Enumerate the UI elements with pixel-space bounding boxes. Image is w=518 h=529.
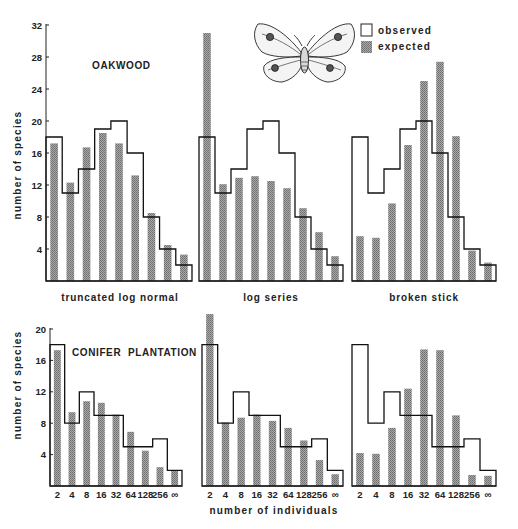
species-abundance-figure: number of species number of species 4812…	[0, 0, 518, 529]
x-tick-label: 4	[69, 489, 75, 500]
histogram-panel: 248163264128256∞	[202, 314, 343, 500]
expected-bar	[269, 421, 276, 486]
expected-bar	[222, 422, 229, 486]
histogram-panel	[46, 121, 192, 281]
y-tick-label: 24	[31, 84, 42, 95]
expected-bar	[171, 470, 178, 486]
x-tick-label: ∞	[485, 489, 492, 500]
y-tick-label: 16	[31, 148, 42, 159]
expected-bar	[237, 418, 244, 486]
expected-bar	[148, 213, 156, 281]
x-tick-label: 2	[55, 489, 60, 500]
expected-bar	[142, 451, 149, 486]
expected-bar	[206, 314, 213, 486]
model-label-broken-stick: broken stick	[389, 292, 459, 303]
x-tick-label: 4	[223, 489, 229, 500]
expected-bar	[484, 476, 492, 486]
expected-bar	[452, 415, 460, 486]
expected-bar	[203, 33, 211, 281]
x-axis-title: number of individuals	[209, 505, 338, 516]
model-label-log-series: log series	[243, 292, 299, 303]
x-tick-label: 16	[96, 489, 107, 500]
site-label-oakwood: OAKWOOD	[92, 60, 151, 71]
site-label-conifer: CONIFER PLANTATION	[72, 347, 197, 358]
x-tick-label: 32	[419, 489, 430, 500]
expected-bar	[284, 428, 291, 486]
x-tick-label: 128	[137, 489, 153, 500]
x-tick-label: 8	[84, 489, 89, 500]
expected-bar	[219, 184, 227, 281]
x-tick-label: 8	[389, 489, 394, 500]
expected-bar	[404, 389, 412, 486]
x-tick-label: 64	[125, 489, 136, 500]
expected-bar	[251, 176, 259, 281]
y-tick-label: 20	[35, 324, 46, 335]
expected-bar	[157, 467, 164, 486]
x-tick-label: 32	[267, 489, 278, 500]
expected-bar	[180, 255, 188, 281]
legend-observed-label: observed	[378, 25, 432, 36]
x-tick-label: 64	[435, 489, 446, 500]
expected-bar	[420, 349, 428, 486]
x-tick-label: 256	[464, 489, 480, 500]
x-tick-label: ∞	[332, 489, 339, 500]
legend-expected-label: expected	[378, 41, 431, 52]
expected-bar	[299, 208, 307, 281]
expected-bar	[331, 256, 339, 281]
expected-bar	[115, 143, 123, 281]
y-tick-label: 32	[31, 20, 42, 31]
expected-bar	[372, 238, 380, 281]
expected-bar	[267, 181, 275, 281]
expected-bar	[436, 350, 444, 486]
expected-bar	[356, 236, 364, 281]
expected-bar	[50, 143, 58, 281]
expected-bar	[420, 81, 428, 281]
histogram-panel	[352, 62, 496, 281]
histogram-panels: 248163264128256∞248163264128256∞24816326…	[46, 33, 496, 500]
model-label-tln: truncated log normal	[61, 292, 178, 303]
expected-bar	[113, 415, 120, 486]
expected-bar	[99, 133, 107, 281]
legend-expected-swatch	[361, 41, 372, 53]
expected-bar	[331, 474, 338, 486]
y-axis-title-bottom: number of species	[12, 331, 23, 440]
expected-bar	[468, 251, 476, 281]
y-tick-label: 12	[35, 386, 46, 397]
y-tick-label: 20	[31, 116, 42, 127]
y-tick-label: 16	[35, 355, 46, 366]
expected-bar	[436, 62, 444, 281]
expected-bar	[67, 183, 75, 281]
y-tick-label: 4	[37, 244, 43, 255]
y-tick-label: 4	[41, 449, 47, 460]
expected-bar	[452, 136, 460, 281]
x-tick-label: 16	[403, 489, 414, 500]
x-tick-label: ∞	[171, 489, 178, 500]
x-tick-label: 64	[283, 489, 294, 500]
expected-bar	[131, 175, 139, 281]
expected-bar	[356, 453, 364, 486]
expected-bar	[235, 178, 243, 281]
legend-observed-swatch	[361, 24, 372, 36]
x-tick-label: 2	[207, 489, 212, 500]
expected-bar	[164, 245, 172, 281]
moth-illustration	[255, 24, 355, 82]
expected-bar	[388, 203, 396, 281]
x-tick-label: 2	[357, 489, 362, 500]
x-tick-label: 256	[312, 489, 328, 500]
expected-bar	[54, 350, 61, 486]
expected-bar	[388, 428, 396, 486]
expected-bar	[315, 232, 323, 281]
expected-bar	[283, 188, 291, 281]
y-tick-label: 8	[41, 418, 46, 429]
legend: observed expected	[361, 24, 432, 53]
x-tick-label: 256	[152, 489, 168, 500]
x-tick-label: 128	[448, 489, 464, 500]
x-tick-label: 16	[252, 489, 263, 500]
expected-bar	[83, 147, 91, 281]
y-axis-title-top: number of species	[12, 111, 23, 220]
expected-bar	[83, 401, 90, 486]
x-tick-label: 4	[373, 489, 379, 500]
histogram-panel: 248163264128256∞	[50, 345, 182, 500]
expected-bar	[127, 432, 134, 486]
x-tick-label: 128	[296, 489, 312, 500]
